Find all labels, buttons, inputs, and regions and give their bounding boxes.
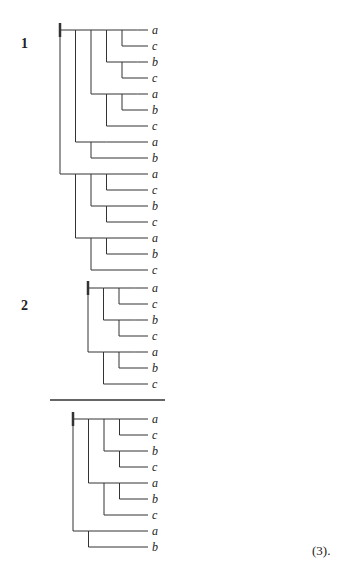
leaf-label: a <box>152 231 158 245</box>
leaf-label: b <box>152 199 158 213</box>
leaf-label: c <box>152 297 158 311</box>
leaf-label: c <box>152 428 158 442</box>
leaf-label: c <box>152 460 158 474</box>
leaf-label: b <box>152 151 158 165</box>
leaf-label: c <box>152 377 158 391</box>
leaf-label: a <box>152 23 158 37</box>
leaf-label: b <box>152 313 158 327</box>
leaf-label: b <box>152 103 158 117</box>
leaf-label: a <box>152 345 158 359</box>
leaf-label: c <box>152 215 158 229</box>
leaf-label: b <box>152 55 158 69</box>
leaf-label: c <box>152 508 158 522</box>
leaf-label: c <box>152 329 158 343</box>
leaf-label: c <box>152 71 158 85</box>
leaf-label: a <box>152 87 158 101</box>
leaf-label: c <box>152 119 158 133</box>
leaf-label: a <box>152 476 158 490</box>
tree-diagrams: acbcabcabacbcabcacbcabcacbcabcab <box>0 0 352 573</box>
leaf-label: a <box>152 412 158 426</box>
leaf-label: b <box>152 540 158 554</box>
leaf-label: a <box>152 524 158 538</box>
leaf-label: c <box>152 263 158 277</box>
leaf-label: a <box>152 135 158 149</box>
leaf-label: a <box>152 167 158 181</box>
leaf-label: c <box>152 39 158 53</box>
leaf-label: c <box>152 183 158 197</box>
leaf-label: b <box>152 444 158 458</box>
leaf-label: a <box>152 281 158 295</box>
leaf-label: b <box>152 361 158 375</box>
leaf-label: b <box>152 247 158 261</box>
leaf-label: b <box>152 492 158 506</box>
